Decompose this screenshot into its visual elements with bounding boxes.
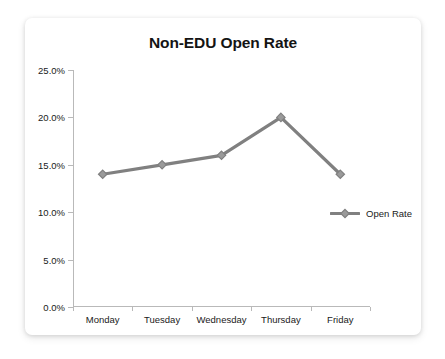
series-line xyxy=(103,117,341,174)
x-tick xyxy=(251,307,252,311)
x-tick-label: Tuesday xyxy=(144,314,180,325)
y-tick-label: 25.0% xyxy=(38,65,65,76)
x-tick-label: Monday xyxy=(86,314,120,325)
x-tick-label: Wednesday xyxy=(197,314,247,325)
data-point-marker xyxy=(158,161,166,169)
data-point-marker xyxy=(99,170,107,178)
chart-title: Non-EDU Open Rate xyxy=(25,34,421,52)
legend-label: Open Rate xyxy=(366,208,412,219)
series-open-rate xyxy=(73,70,370,307)
x-tick xyxy=(132,307,133,311)
x-tick-label: Friday xyxy=(327,314,353,325)
chart-card: Non-EDU Open Rate 0.0%5.0%10.0%15.0%20.0… xyxy=(25,18,421,335)
plot-area: 0.0%5.0%10.0%15.0%20.0%25.0% MondayTuesd… xyxy=(73,70,370,307)
y-tick-label: 15.0% xyxy=(38,159,65,170)
y-tick-label: 20.0% xyxy=(38,112,65,123)
y-tick-label: 0.0% xyxy=(43,302,65,313)
y-tick-label: 5.0% xyxy=(43,254,65,265)
x-tick xyxy=(192,307,193,311)
x-tick xyxy=(370,307,371,311)
legend-marker-icon xyxy=(330,208,360,219)
x-tick xyxy=(311,307,312,311)
x-tick-label: Thursday xyxy=(261,314,301,325)
x-tick xyxy=(73,307,74,311)
chart-legend: Open Rate xyxy=(330,208,412,219)
y-tick-label: 10.0% xyxy=(38,207,65,218)
